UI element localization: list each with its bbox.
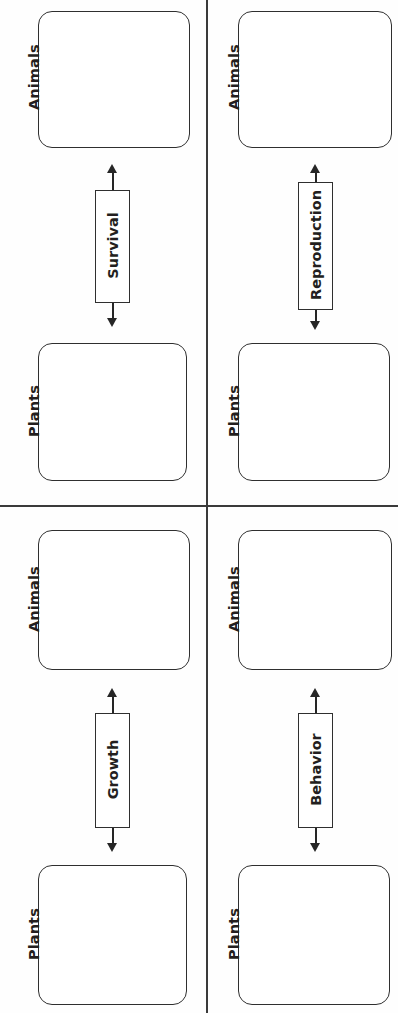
node-caption-plants: Plants (26, 385, 42, 437)
edge-label-text: Behavior (308, 718, 324, 821)
quadrant-top-left: Animals Survival Plants (0, 0, 200, 500)
node-box-animals[interactable] (38, 11, 190, 148)
arrow-head-down-icon (310, 321, 320, 330)
arrow-shaft-upper (112, 696, 114, 713)
quadrant-top-right: Animals Reproduction Plants (198, 0, 398, 500)
node-box-plants[interactable] (38, 343, 187, 481)
node-box-animals[interactable] (38, 530, 190, 670)
edge-label-text: Survival (105, 195, 121, 296)
node-box-animals[interactable] (238, 530, 392, 670)
node-box-plants[interactable] (238, 865, 390, 1005)
arrow-head-down-icon (107, 318, 117, 327)
node-caption-animals: Animals (226, 44, 242, 110)
node-box-plants[interactable] (238, 343, 390, 481)
node-box-animals[interactable] (238, 11, 392, 148)
node-caption-animals: Animals (26, 566, 42, 632)
arrow-head-down-icon (310, 843, 320, 852)
node-box-plants[interactable] (38, 865, 187, 1005)
edge-label-text: Growth (105, 718, 121, 821)
diagram-canvas: Animals Survival Plants Animals Reproduc… (0, 0, 398, 1013)
arrow-shaft-upper (112, 172, 114, 191)
node-caption-plants: Plants (26, 908, 42, 960)
node-caption-animals: Animals (26, 44, 42, 110)
quadrant-bottom-left: Animals Growth Plants (0, 507, 200, 1007)
node-caption-plants: Plants (226, 908, 242, 960)
arrow-shaft-lower (112, 828, 114, 844)
arrow-shaft-lower (112, 303, 114, 319)
node-caption-animals: Animals (226, 566, 242, 632)
edge-label-text: Reproduction (308, 187, 324, 303)
node-caption-plants: Plants (226, 385, 242, 437)
arrow-shaft-upper (315, 696, 317, 713)
arrow-head-down-icon (107, 843, 117, 852)
quadrant-bottom-right: Animals Behavior Plants (198, 507, 398, 1007)
arrow-shaft-lower (315, 828, 317, 844)
